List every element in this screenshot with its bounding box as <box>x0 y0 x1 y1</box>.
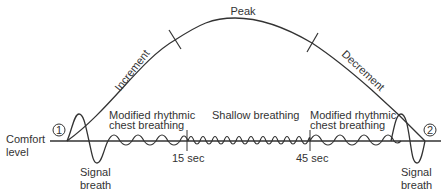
comfort-level-label-line2: level <box>6 146 29 158</box>
modified-breathing-right-label-line2: chest breathing <box>310 119 385 131</box>
signal-breath-right <box>391 114 425 163</box>
marker-2-label: 2 <box>427 124 433 136</box>
peak-label: Peak <box>230 5 256 17</box>
shallow-breathing-wave <box>188 137 310 145</box>
increment-peak-tick <box>169 30 181 49</box>
signal-breath-left <box>67 114 108 163</box>
decrement-label: Decrement <box>340 48 388 93</box>
time-45s-label: 45 sec <box>296 152 329 164</box>
modified-breathing-left-label-line2: chest breathing <box>109 119 184 131</box>
signal-breath-right-label-line2: breath <box>401 179 432 191</box>
modified-breathing-right-wave <box>310 135 401 145</box>
marker-1-label: 1 <box>56 124 62 136</box>
signal-breath-right-label-line1: Signal <box>401 166 432 178</box>
signal-breath-left-label-line2: breath <box>80 179 111 191</box>
contraction-breathing-diagram: 1 2 Peak Increment Decrement Comfort lev… <box>0 0 445 196</box>
comfort-level-label-line1: Comfort <box>6 133 45 145</box>
shallow-breathing-label: Shallow breathing <box>212 109 299 121</box>
signal-breath-left-label-line1: Signal <box>80 166 111 178</box>
peak-decrement-tick <box>307 33 318 52</box>
modified-breathing-left-wave <box>108 135 188 145</box>
increment-label: Increment <box>112 47 152 93</box>
time-15s-label: 15 sec <box>172 152 205 164</box>
